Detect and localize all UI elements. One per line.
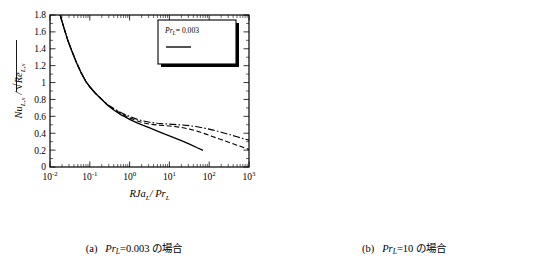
svg-text:0.2: 0.2 — [34, 146, 46, 156]
svg-text:1.4: 1.4 — [34, 44, 46, 54]
svg-text:1.2: 1.2 — [34, 61, 46, 71]
svg-text:RJaL/ PrL: RJaL/ PrL — [128, 188, 169, 202]
svg-text:1: 1 — [41, 78, 46, 88]
svg-text:PrL= 0.003: PrL= 0.003 — [164, 26, 199, 36]
svg-text:0.8: 0.8 — [34, 95, 46, 105]
caption-b-suffix: の場合 — [416, 243, 446, 254]
caption-panel-a: (a) PrL=0.003 の場合 — [0, 240, 268, 256]
svg-text:0: 0 — [41, 162, 46, 172]
caption-panel-b: (b) PrL=10 の場合 — [268, 240, 540, 256]
svg-text:10-1: 10-1 — [82, 170, 97, 182]
svg-text:0.4: 0.4 — [34, 129, 46, 139]
caption-a-math: PrL — [105, 243, 120, 254]
chart-a-plot: 10-210-110010110210300.20.40.60.811.21.4… — [0, 0, 268, 220]
figure-panel-b: (b) PrL=10 の場合 — [268, 0, 540, 264]
svg-text:1.8: 1.8 — [34, 10, 46, 20]
figure-panel-a: 10-210-110010110210300.20.40.60.811.21.4… — [0, 0, 268, 264]
svg-text:0.6: 0.6 — [34, 112, 46, 122]
svg-text:1.6: 1.6 — [34, 27, 46, 37]
svg-text:101: 101 — [163, 170, 176, 182]
chart-b-plot — [268, 0, 540, 220]
caption-a-value: =0.003 — [120, 243, 150, 254]
svg-text:NuL,x /√ReL,x: NuL,x /√ReL,x — [11, 63, 27, 120]
svg-text:102: 102 — [203, 170, 217, 182]
svg-text:100: 100 — [123, 170, 137, 182]
caption-b-label: (b) — [362, 243, 374, 254]
svg-text:103: 103 — [243, 170, 257, 182]
figure-root: 10-210-110010110210300.20.40.60.811.21.4… — [0, 0, 540, 264]
caption-a-label: (a) — [86, 243, 98, 254]
caption-b-math: PrL — [382, 243, 397, 254]
caption-a-suffix: の場合 — [152, 243, 182, 254]
caption-b-value: =10 — [397, 243, 413, 254]
